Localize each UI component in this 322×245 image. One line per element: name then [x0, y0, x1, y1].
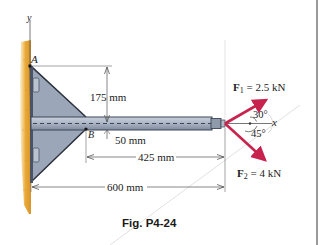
angle-45-label: 45° — [251, 129, 266, 140]
dim-425-label: 425 mm — [138, 152, 174, 163]
figure-caption: Fig. P4-24 — [122, 217, 176, 229]
page-border — [316, 0, 318, 245]
bolt-lower — [33, 148, 39, 162]
point-a-label: A — [31, 54, 38, 65]
beam-end-pin — [221, 120, 225, 127]
angle-vertex-dot — [249, 122, 251, 124]
force-f2-label: F2 = 4 kN — [237, 168, 281, 181]
force-f1-value: = 2.5 kN — [246, 81, 285, 93]
force-f1-symbol: F — [233, 81, 240, 93]
force-f1-subscript: 1 — [240, 86, 244, 95]
dim-175-label: 175 mm — [90, 92, 126, 103]
figure-p4-24: y A B 175 mm 50 mm 425 mm 600 mm x 30° 4… — [0, 0, 322, 245]
force-f2-symbol: F — [237, 167, 244, 179]
beam-end-fitting — [211, 119, 221, 129]
dim-50-label: 50 mm — [115, 135, 146, 146]
beam — [31, 117, 212, 130]
bolt-upper — [33, 78, 39, 92]
angle-30-label: 30° — [253, 110, 268, 121]
force-f2-subscript: 2 — [244, 172, 248, 181]
force-f1-label: F1 = 2.5 kN — [233, 82, 285, 95]
dim-600-label: 600 mm — [107, 182, 143, 193]
point-b-label: B — [88, 130, 94, 140]
force-f2-value: = 4 kN — [250, 167, 281, 179]
y-axis-label: y — [27, 13, 31, 23]
x-axis-label: x — [272, 117, 277, 128]
